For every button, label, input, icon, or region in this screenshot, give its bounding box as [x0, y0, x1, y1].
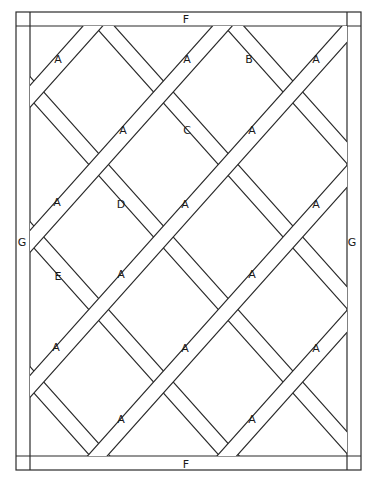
part-label-f: F	[183, 458, 189, 471]
part-label-a: A	[312, 198, 320, 211]
part-label-a: A	[119, 124, 127, 137]
part-label-a: A	[181, 342, 189, 355]
forward-slash-strip	[0, 136, 373, 487]
back-slash-strip	[0, 188, 373, 487]
part-label-b: B	[245, 53, 253, 66]
forward-slash-strip	[0, 0, 373, 286]
back-slash-strip	[0, 0, 373, 193]
back-slash-strip	[0, 0, 373, 338]
lattice-diagram: FFGGBCDEAAAAAAAAAAAAAAA	[0, 0, 373, 487]
part-label-f: F	[183, 13, 189, 26]
lattice-diagram-canvas: FFGGBCDEAAAAAAAAAAAAAAA	[0, 0, 373, 487]
part-label-a: A	[248, 124, 256, 137]
part-label-a: A	[312, 53, 320, 66]
part-label-d: D	[117, 198, 125, 211]
part-label-a: A	[183, 53, 191, 66]
part-label-c: C	[183, 124, 191, 137]
part-label-a: A	[117, 268, 125, 281]
lattice-strips	[0, 0, 373, 487]
part-label-a: A	[117, 413, 125, 426]
part-label-a: A	[312, 342, 320, 355]
part-label-a: A	[53, 196, 61, 209]
part-label-a: A	[248, 413, 256, 426]
part-label-a: A	[52, 341, 60, 354]
part-label-a: A	[181, 198, 189, 211]
part-label-g: G	[348, 236, 357, 249]
part-label-a: A	[248, 268, 256, 281]
part-label-e: E	[55, 270, 62, 283]
part-label-a: A	[54, 53, 62, 66]
part-label-g: G	[18, 236, 27, 249]
